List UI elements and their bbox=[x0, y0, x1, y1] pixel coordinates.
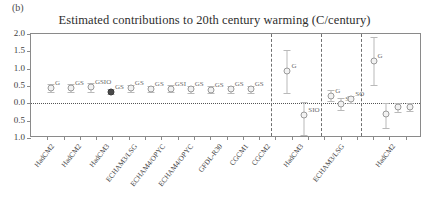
x-axis-category-label: HadCM2 bbox=[59, 142, 83, 169]
x-axis-tick bbox=[47, 136, 48, 140]
chart-title: Estimated contributions to 20th century … bbox=[0, 13, 429, 28]
data-point-label: G bbox=[335, 87, 340, 95]
y-axis-tick-label: 1.5 bbox=[1, 45, 25, 55]
error-bar-cap bbox=[284, 50, 291, 51]
group-divider bbox=[321, 34, 322, 136]
x-axis-category-label: HadCM2 bbox=[32, 142, 56, 169]
data-point-marker bbox=[147, 85, 154, 92]
x-axis-tick bbox=[194, 136, 195, 140]
data-point-marker bbox=[227, 86, 234, 93]
x-axis-tick bbox=[275, 136, 276, 140]
x-axis-tick bbox=[324, 136, 325, 140]
x-axis-category-label: CGCM2 bbox=[249, 142, 272, 167]
y-axis-tick bbox=[27, 86, 31, 87]
error-bar-cap bbox=[284, 93, 291, 94]
error-bar-cap bbox=[47, 92, 54, 93]
x-axis-tick bbox=[406, 136, 407, 140]
plot-area: GGSGSIOGSGSGSGSIGSGSGSGSGSIOGSSOG bbox=[30, 33, 421, 137]
x-axis-tick bbox=[161, 136, 162, 140]
data-point-marker bbox=[67, 85, 74, 92]
data-point-marker bbox=[47, 84, 54, 91]
data-point-marker bbox=[301, 112, 308, 119]
x-axis-tick bbox=[243, 136, 244, 140]
data-point-marker bbox=[127, 85, 134, 92]
x-axis-tick bbox=[373, 136, 374, 140]
y-axis-tick bbox=[27, 51, 31, 52]
x-axis-category-label: GFDL-R30 bbox=[196, 142, 224, 174]
error-bar-cap bbox=[328, 90, 335, 91]
y-axis-tick bbox=[27, 34, 31, 35]
data-point-marker bbox=[207, 86, 214, 93]
x-axis-category-label: HadCM2 bbox=[373, 142, 397, 169]
x-axis-tick bbox=[96, 136, 97, 140]
figure-container: (b) Estimated contributions to 20th cent… bbox=[0, 0, 429, 207]
x-axis-tick bbox=[389, 136, 390, 140]
x-axis-tick bbox=[210, 136, 211, 140]
error-bar-cap bbox=[127, 92, 134, 93]
group-divider bbox=[361, 34, 362, 136]
error-bar-cap bbox=[394, 112, 401, 113]
y-axis-tick bbox=[27, 69, 31, 70]
error-bar-cap bbox=[247, 93, 254, 94]
data-point-marker bbox=[406, 103, 413, 110]
data-point-marker bbox=[284, 68, 291, 75]
error-bar-cap bbox=[301, 102, 308, 103]
x-axis-tick bbox=[259, 136, 260, 140]
y-axis-tick-label: 1.0 bbox=[1, 132, 25, 142]
x-axis-tick bbox=[129, 136, 130, 140]
data-point-marker bbox=[107, 88, 114, 95]
data-point-label: GS bbox=[255, 80, 264, 88]
y-axis-tick bbox=[27, 121, 31, 122]
error-bar-cap bbox=[87, 92, 94, 93]
error-bar-cap bbox=[370, 85, 377, 86]
x-axis-tick bbox=[64, 136, 65, 140]
data-point-label: G bbox=[291, 62, 296, 70]
error-bar-cap bbox=[406, 111, 413, 112]
error-bar-cap bbox=[338, 98, 345, 99]
x-axis-tick bbox=[308, 136, 309, 140]
data-point-label: GS bbox=[215, 81, 224, 89]
error-bar-cap bbox=[67, 92, 74, 93]
y-axis-tick-label: 2.0 bbox=[1, 28, 25, 38]
data-point-marker bbox=[328, 92, 335, 99]
data-point-label: GS bbox=[195, 80, 204, 88]
data-point-marker bbox=[87, 84, 94, 91]
error-bar-cap bbox=[382, 128, 389, 129]
data-point-label: GS bbox=[135, 79, 144, 87]
x-axis-tick bbox=[145, 136, 146, 140]
x-axis-category-label: HadCM3 bbox=[281, 142, 305, 169]
y-axis-tick-label: 1.0 bbox=[1, 63, 25, 73]
data-point-label: SO bbox=[355, 90, 364, 98]
x-axis-tick bbox=[341, 136, 342, 140]
error-bar-cap bbox=[348, 103, 355, 104]
x-axis-tick bbox=[80, 136, 81, 140]
x-axis-tick bbox=[178, 136, 179, 140]
error-bar-cap bbox=[301, 135, 308, 136]
error-bar-cap bbox=[187, 93, 194, 94]
data-point-marker bbox=[167, 85, 174, 92]
data-point-marker bbox=[187, 86, 194, 93]
y-axis-tick-label: 0.0 bbox=[1, 97, 25, 107]
data-point-label: G bbox=[378, 52, 383, 60]
data-point-marker bbox=[338, 101, 345, 108]
error-bar-cap bbox=[328, 101, 335, 102]
error-bar-cap bbox=[207, 93, 214, 94]
panel-label: (b) bbox=[12, 2, 24, 13]
x-axis-tick bbox=[292, 136, 293, 140]
data-point-marker bbox=[348, 96, 355, 103]
x-axis-tick bbox=[112, 136, 113, 140]
error-bar-cap bbox=[167, 92, 174, 93]
data-point-label: SIO bbox=[308, 106, 319, 114]
x-axis-tick bbox=[227, 136, 228, 140]
data-point-marker bbox=[382, 110, 389, 117]
data-point-marker bbox=[247, 86, 254, 93]
data-point-label: GS bbox=[115, 83, 124, 91]
group-divider bbox=[271, 34, 272, 136]
data-point-label: GS bbox=[155, 80, 164, 88]
y-axis-tick-label: 0.5 bbox=[1, 80, 25, 90]
data-point-marker bbox=[370, 58, 377, 65]
x-axis-category-label: HadCM3 bbox=[88, 142, 112, 169]
x-axis-category-label: CGCM1 bbox=[228, 142, 251, 167]
error-bar-cap bbox=[338, 110, 345, 111]
error-bar-cap bbox=[382, 103, 389, 104]
